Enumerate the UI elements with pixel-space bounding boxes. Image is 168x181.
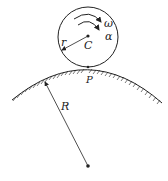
large-radius-label: R — [60, 100, 69, 113]
alpha-arrow-icon — [78, 21, 99, 30]
large-radius-line — [45, 82, 88, 166]
center-label: C — [84, 39, 93, 52]
alpha-label: α — [105, 30, 113, 43]
rolling-disk-diagram: ω α C r P R — [0, 0, 168, 181]
contact-point-label: P — [85, 74, 93, 85]
omega-arrow-icon — [74, 14, 101, 22]
large-center-point — [86, 164, 90, 168]
small-radius-label: r — [61, 36, 67, 49]
omega-label: ω — [104, 17, 113, 30]
contact-point-marker — [87, 66, 90, 69]
